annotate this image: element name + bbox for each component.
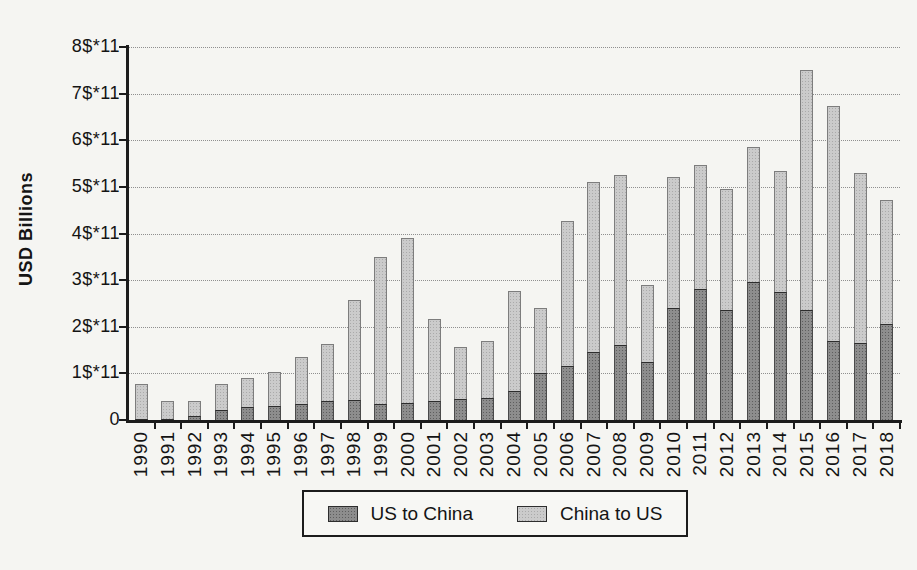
bar-segment-china-to-us-1994 (241, 378, 254, 407)
x-tick-15 (526, 420, 528, 429)
bar-1991 (161, 401, 174, 420)
bar-segment-china-to-us-2009 (641, 285, 654, 362)
bar-2016 (827, 106, 840, 420)
bar-2015 (800, 70, 813, 420)
bar-2011 (694, 165, 707, 420)
bar-segment-us-to-china-2013 (747, 282, 760, 420)
bar-2009 (641, 285, 654, 420)
bar-segment-china-to-us-2002 (454, 347, 467, 399)
bar-1993 (215, 384, 228, 420)
bar-segment-us-to-china-1994 (241, 407, 254, 420)
x-tick-22 (713, 420, 715, 429)
y-tick-label-7$*11: 7$*11 (0, 83, 120, 104)
x-tick-label-2014: 2014 (769, 431, 791, 477)
y-tick-label-6$*11: 6$*11 (0, 129, 120, 150)
bar-2001 (428, 319, 441, 420)
bar-segment-us-to-china-1997 (321, 401, 334, 420)
x-tick-label-2012: 2012 (716, 431, 738, 477)
x-tick-3 (207, 420, 209, 429)
bar-segment-us-to-china-1993 (215, 410, 228, 420)
x-tick-17 (580, 420, 582, 429)
legend-label-china-to-us: China to US (560, 503, 662, 525)
bar-segment-china-to-us-2015 (800, 70, 813, 310)
y-tick-label-2$*11: 2$*11 (0, 316, 120, 337)
x-tick-6 (287, 420, 289, 429)
x-tick-18 (606, 420, 608, 429)
bar-segment-us-to-china-2016 (827, 341, 840, 420)
bar-2000 (401, 238, 414, 420)
x-tick-label-2009: 2009 (636, 431, 658, 477)
y-tick-0 (119, 419, 128, 421)
bar-1999 (374, 257, 387, 420)
bar-segment-china-to-us-1993 (215, 384, 228, 410)
y-tick-1$*11 (119, 372, 128, 374)
x-tick-label-1997: 1997 (317, 431, 339, 477)
bar-segment-us-to-china-2008 (614, 345, 627, 420)
x-tick-label-2003: 2003 (476, 431, 498, 477)
bar-2018 (880, 200, 893, 420)
x-tick-label-2002: 2002 (450, 431, 472, 477)
x-tick-24 (766, 420, 768, 429)
x-tick-label-2004: 2004 (503, 431, 525, 477)
x-tick-27 (846, 420, 848, 429)
legend-item-china-to-us: China to US (517, 503, 662, 525)
bar-segment-us-to-china-2006 (561, 366, 574, 420)
bar-segment-china-to-us-2011 (694, 165, 707, 289)
bar-1997 (321, 344, 334, 420)
x-tick-5 (260, 420, 262, 429)
bar-segment-china-to-us-2001 (428, 319, 441, 401)
bar-segment-us-to-china-1995 (268, 406, 281, 420)
x-tick-10 (393, 420, 395, 429)
gridline-6$*11 (128, 140, 900, 141)
bar-segment-china-to-us-1999 (374, 257, 387, 404)
x-tick-label-1994: 1994 (237, 431, 259, 477)
x-tick-13 (473, 420, 475, 429)
y-tick-5$*11 (119, 186, 128, 188)
bar-segment-china-to-us-2005 (534, 308, 547, 373)
y-tick-label-5$*11: 5$*11 (0, 176, 120, 197)
x-tick-label-2018: 2018 (876, 431, 898, 477)
bar-segment-china-to-us-2012 (720, 189, 733, 310)
bar-segment-us-to-china-2015 (800, 310, 813, 420)
bar-segment-china-to-us-2004 (508, 291, 521, 391)
x-tick-23 (739, 420, 741, 429)
x-tick-28 (872, 420, 874, 429)
x-tick-label-2010: 2010 (663, 431, 685, 477)
y-tick-4$*11 (119, 233, 128, 235)
bar-2003 (481, 341, 494, 420)
gridline-8$*11 (128, 47, 900, 48)
bar-2004 (508, 291, 521, 420)
x-tick-16 (553, 420, 555, 429)
bar-1995 (268, 372, 281, 420)
bar-segment-us-to-china-2009 (641, 362, 654, 420)
bar-segment-us-to-china-2000 (401, 403, 414, 420)
x-tick-21 (686, 420, 688, 429)
bar-segment-us-to-china-2001 (428, 401, 441, 420)
bar-segment-us-to-china-2018 (880, 324, 893, 420)
x-tick-label-2013: 2013 (743, 431, 765, 477)
bar-segment-us-to-china-2007 (587, 352, 600, 420)
bar-1992 (188, 401, 201, 420)
x-tick-label-2015: 2015 (796, 431, 818, 477)
x-tick-14 (500, 420, 502, 429)
y-tick-label-0: 0 (0, 409, 120, 430)
bar-segment-china-to-us-1995 (268, 372, 281, 406)
legend-label-us-to-china: US to China (371, 503, 473, 525)
bar-segment-us-to-china-2003 (481, 398, 494, 420)
bar-segment-china-to-us-2007 (587, 182, 600, 352)
y-tick-label-8$*11: 8$*11 (0, 36, 120, 57)
x-tick-26 (819, 420, 821, 429)
bar-2010 (667, 177, 680, 420)
bar-1990 (135, 384, 148, 420)
bar-segment-china-to-us-2003 (481, 341, 494, 398)
x-tick-7 (313, 420, 315, 429)
y-tick-label-3$*11: 3$*11 (0, 269, 120, 290)
bar-segment-china-to-us-1992 (188, 401, 201, 416)
x-tick-9 (367, 420, 369, 429)
bar-segment-china-to-us-2008 (614, 175, 627, 345)
bar-segment-china-to-us-2017 (854, 173, 867, 343)
y-tick-3$*11 (119, 279, 128, 281)
bar-segment-us-to-china-1998 (348, 400, 361, 420)
bar-segment-us-to-china-2012 (720, 310, 733, 420)
x-tick-label-1991: 1991 (157, 431, 179, 477)
